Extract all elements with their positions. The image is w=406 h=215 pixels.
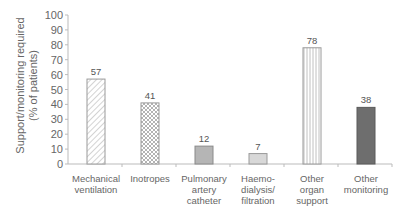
x-axis	[68, 164, 392, 167]
y-tick-label: 0	[57, 158, 63, 170]
y-tick-label: 50	[51, 84, 63, 96]
y-tick-label: 90	[51, 24, 63, 36]
y-axis: 0102030405060708090100	[45, 9, 68, 170]
bar-value-label: 57	[91, 66, 102, 77]
y-tick-label: 10	[51, 143, 63, 155]
y-tick-label: 70	[51, 54, 63, 66]
bar-value-label: 7	[255, 141, 260, 152]
y-axis-label-line: (% of patients)	[27, 50, 39, 121]
bar	[141, 103, 159, 164]
bar	[249, 154, 267, 164]
y-tick-label: 60	[51, 69, 63, 81]
bar-value-label: 38	[361, 94, 372, 105]
y-tick-label: 100	[45, 9, 63, 21]
bar	[357, 107, 375, 164]
x-category-label: Othermonitoring	[331, 173, 401, 195]
bar	[303, 48, 321, 164]
y-tick-label: 20	[51, 128, 63, 140]
bar	[195, 146, 213, 164]
bars: 57411277838	[87, 35, 375, 164]
y-tick-label: 80	[51, 39, 63, 51]
bar-value-label: 12	[199, 133, 210, 144]
y-tick-label: 40	[51, 98, 63, 110]
y-axis-label-line: Support/monitoring required	[14, 17, 26, 153]
bar-value-label: 41	[145, 90, 156, 101]
y-tick-label: 30	[51, 113, 63, 125]
bar	[87, 79, 105, 164]
bar-value-label: 78	[307, 35, 318, 46]
y-axis-label: Support/monitoring required(% of patient…	[14, 17, 39, 153]
